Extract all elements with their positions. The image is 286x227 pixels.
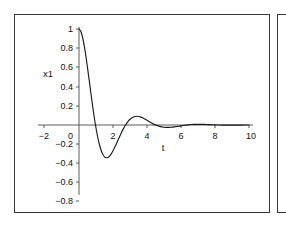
x-tick-label-2: 2	[110, 131, 115, 141]
x-tick-label-neg2: −2	[39, 131, 49, 141]
y-tick-label-0p8: 0.8	[60, 43, 73, 53]
x-tick-label-10: 10	[246, 131, 256, 141]
plot-canvas: −2 0 2 4 6 8 10 1 0.8 0.6 0.4 0.2 −0.2 −…	[15, 15, 271, 214]
main-plot-panel: −2 0 2 4 6 8 10 1 0.8 0.6 0.4 0.2 −0.2 −…	[14, 14, 270, 213]
figure-root: −2 0 2 4 6 8 10 1 0.8 0.6 0.4 0.2 −0.2 −…	[0, 0, 286, 227]
y-tick-label-1: 1	[68, 24, 73, 34]
x-axis-title: t	[162, 142, 165, 153]
y-tick-label-neg0p6: −0.6	[55, 177, 73, 187]
y-tick-label-neg0p2: −0.2	[55, 139, 73, 149]
y-tick-label-0p6: 0.6	[60, 62, 73, 72]
y-axis-title: x1	[43, 68, 53, 79]
y-tick-label-neg0p8: −0.8	[55, 196, 73, 206]
y-tick-label-0p4: 0.4	[60, 82, 73, 92]
y-tick-label-0p2: 0.2	[60, 101, 73, 111]
y-tick-label-neg0p4: −0.4	[55, 158, 73, 168]
x-tick-label-4: 4	[144, 131, 149, 141]
data-curve-x1	[79, 29, 249, 158]
secondary-plot-panel	[277, 14, 286, 213]
x-tick-label-6: 6	[178, 131, 183, 141]
x-tick-label-8: 8	[212, 131, 217, 141]
